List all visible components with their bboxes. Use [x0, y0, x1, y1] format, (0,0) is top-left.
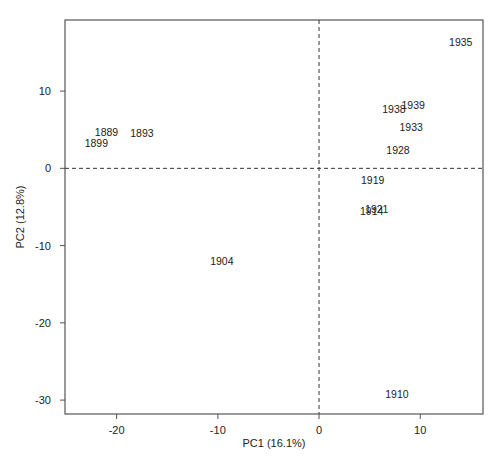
x-tick-label: 0	[316, 424, 322, 436]
y-axis: -30-20-10010	[35, 85, 65, 406]
point-label-1893: 1893	[130, 127, 154, 139]
reference-lines	[65, 20, 483, 414]
x-tick-label: 10	[414, 424, 426, 436]
x-axis: -20-10010	[109, 414, 427, 436]
point-label-1939: 1939	[401, 99, 425, 111]
y-tick-label: -20	[35, 317, 51, 329]
point-label-1910: 1910	[385, 388, 409, 400]
x-tick-label: -10	[210, 424, 226, 436]
point-labels: 1889189318991904191019141919192119281933…	[85, 36, 473, 400]
pca-scatter-chart: -20-10010 -30-20-10010 PC1 (16.1%) PC2 (…	[0, 0, 499, 466]
y-tick-label: 10	[39, 85, 51, 97]
x-axis-label: PC1 (16.1%)	[243, 437, 306, 449]
y-axis-label: PC2 (12.8%)	[14, 186, 26, 249]
point-label-1935: 1935	[449, 36, 473, 48]
plot-frame	[65, 20, 483, 414]
y-tick-label: -10	[35, 240, 51, 252]
x-tick-label: -20	[109, 424, 125, 436]
y-tick-label: -30	[35, 394, 51, 406]
point-label-1899: 1899	[85, 137, 109, 149]
y-tick-label: 0	[45, 162, 51, 174]
point-label-1933: 1933	[399, 121, 423, 133]
point-label-1928: 1928	[386, 144, 410, 156]
point-label-1919: 1919	[361, 174, 385, 186]
point-label-1904: 1904	[210, 255, 234, 267]
point-label-1921: 1921	[365, 203, 389, 215]
